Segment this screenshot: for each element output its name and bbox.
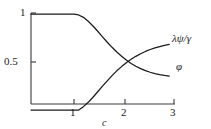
series-line-lambda-psi-gamma	[31, 44, 169, 110]
x-axis-tick-label-2: 2	[121, 107, 127, 118]
curve-label-lambda-psi-gamma: λψ/γ	[172, 33, 191, 44]
x-axis-tick-label-3: 3	[170, 107, 176, 118]
tick-marks-group	[31, 13, 174, 104]
series-line-phi	[31, 14, 169, 76]
series-group	[31, 14, 169, 110]
axes-group	[31, 13, 175, 104]
figure-plot-area: 1 0.5 1 2 3 c λψ/γ φ	[0, 0, 211, 129]
y-axis-tick-label-0-5: 0.5	[4, 56, 18, 67]
x-axis-tick-label-1: 1	[70, 107, 76, 118]
curve-label-phi: φ	[176, 61, 182, 72]
x-axis-title: c	[102, 118, 106, 128]
y-axis-tick-label-1: 1	[20, 7, 26, 18]
